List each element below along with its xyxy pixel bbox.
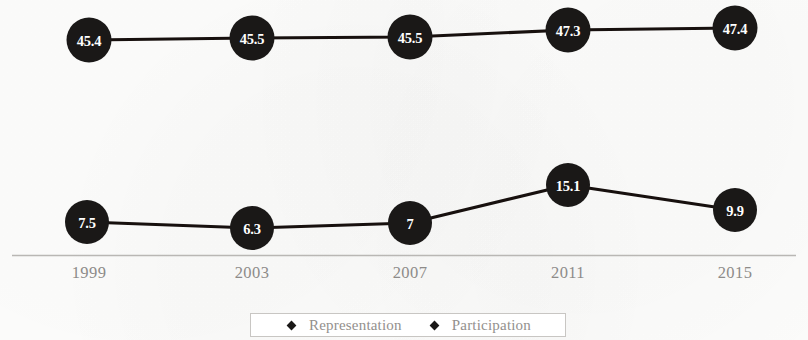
x-axis-tick-2003: 2003 (235, 263, 270, 283)
data-label: 6.3 (243, 221, 261, 237)
chart-legend: Representation Participation (250, 313, 566, 337)
legend-label-participation: Participation (452, 317, 531, 334)
legend-entry-participation[interactable]: Participation (428, 317, 531, 334)
legend-label-representation: Representation (309, 317, 402, 334)
chart-container: 45.4 45.5 45.5 47.3 47.4 7.5 6.3 (0, 0, 808, 340)
data-point-representation-2015[interactable]: 47.4 (713, 6, 758, 51)
data-label: 9.9 (726, 203, 744, 219)
data-point-representation-2011[interactable]: 47.3 (546, 8, 591, 53)
legend-entry-representation[interactable]: Representation (285, 317, 402, 334)
data-label: 47.4 (723, 21, 748, 37)
data-label: 15.1 (556, 178, 581, 194)
x-axis-tick-2011: 2011 (551, 263, 585, 283)
x-axis-tick-2015: 2015 (718, 263, 753, 283)
x-axis-tick-1999: 1999 (72, 263, 107, 283)
x-axis-tick-2007: 2007 (393, 263, 428, 283)
data-point-representation-1999[interactable]: 45.4 (67, 18, 112, 63)
data-point-participation-2003[interactable]: 6.3 (230, 206, 274, 250)
diamond-marker-icon (285, 319, 298, 332)
data-label: 45.5 (240, 31, 265, 47)
data-label: 45.4 (77, 33, 102, 49)
data-label: 7.5 (78, 215, 96, 231)
data-point-participation-2015[interactable]: 9.9 (713, 188, 757, 232)
data-point-participation-2007[interactable]: 7 (388, 201, 432, 245)
data-point-participation-1999[interactable]: 7.5 (65, 200, 109, 244)
data-point-representation-2003[interactable]: 45.5 (230, 16, 275, 61)
data-point-representation-2007[interactable]: 45.5 (388, 15, 433, 60)
data-point-participation-2011[interactable]: 15.1 (546, 163, 590, 207)
data-label: 45.5 (398, 30, 423, 46)
diamond-marker-icon (428, 319, 441, 332)
chart-plot-area: 45.4 45.5 45.5 47.3 47.4 7.5 6.3 (0, 0, 808, 340)
data-label: 47.3 (556, 23, 581, 39)
data-label: 7 (406, 216, 413, 232)
